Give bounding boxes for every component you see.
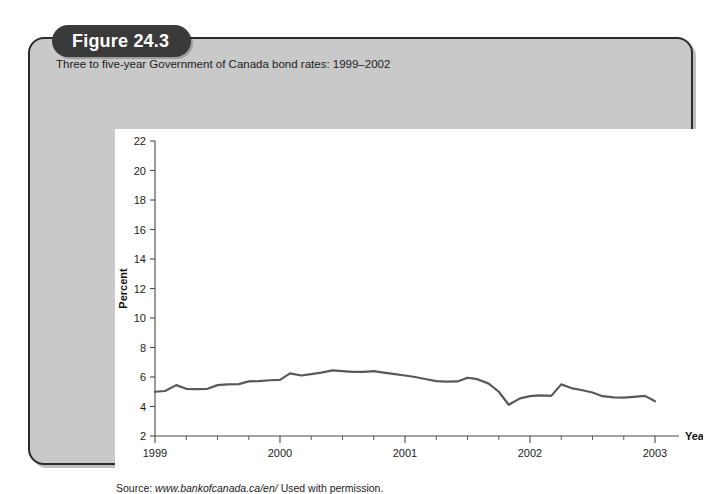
x-axis-tick-label: 2002 [518, 447, 542, 459]
figure-card: 24681012141618202219992000200120022003Pe… [28, 37, 693, 465]
y-axis-tick-label: 20 [134, 165, 146, 177]
source-prefix: Source: [116, 482, 152, 494]
figure-number-label: Figure 24.3 [72, 31, 169, 52]
x-axis-tick-label: 2003 [643, 447, 667, 459]
y-axis-tick-label: 2 [140, 430, 146, 442]
bond-rates-line-chart: 24681012141618202219992000200120022003Pe… [115, 129, 703, 469]
figure-subtitle: Three to five-year Government of Canada … [56, 58, 390, 70]
source-note: Source: www.bankofcanada.ca/en/ Used wit… [116, 482, 383, 494]
y-axis-tick-label: 8 [140, 342, 146, 354]
y-axis-title: Percent [117, 268, 129, 309]
y-axis-tick-label: 18 [134, 194, 146, 206]
y-axis-tick-label: 6 [140, 371, 146, 383]
y-axis-tick-label: 12 [134, 283, 146, 295]
y-axis-tick-label: 10 [134, 312, 146, 324]
x-axis-tick-label: 2000 [268, 447, 292, 459]
y-axis-tick-label: 14 [134, 253, 146, 265]
source-suffix: Used with permission. [281, 482, 384, 494]
y-axis-tick-label: 16 [134, 224, 146, 236]
x-axis-title: Year [685, 430, 703, 442]
x-axis-tick-label: 1999 [143, 447, 167, 459]
x-axis-tick-label: 2001 [393, 447, 417, 459]
chart-plot-panel: 24681012141618202219992000200120022003Pe… [115, 129, 703, 469]
y-axis-tick-label: 22 [134, 135, 146, 147]
data-series-line-0 [155, 370, 655, 404]
source-url[interactable]: www.bankofcanada.ca/en/ [155, 482, 278, 494]
figure-number-badge: Figure 24.3 [52, 25, 191, 57]
y-axis-tick-label: 4 [140, 401, 146, 413]
